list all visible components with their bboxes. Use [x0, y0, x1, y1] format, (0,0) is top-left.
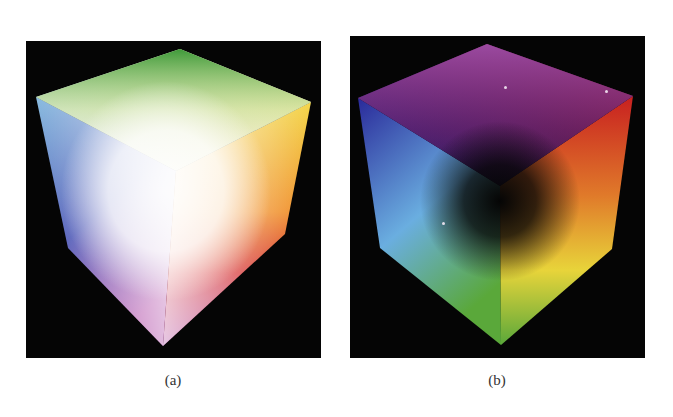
highlight-dot [605, 90, 608, 93]
color-cube-panel-b [350, 36, 645, 358]
caption-a: (a) [143, 372, 203, 389]
highlight-dot [504, 86, 507, 89]
highlight-dot [442, 222, 445, 225]
color-cube-panel-a [26, 41, 321, 358]
rgb-cube-black-view [350, 36, 645, 358]
caption-b: (b) [467, 372, 527, 389]
rgb-cube-white-view [26, 41, 321, 358]
